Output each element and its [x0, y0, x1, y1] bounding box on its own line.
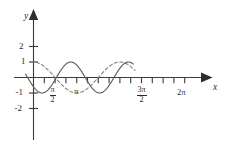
fraction-pi-over-2: π 2: [50, 86, 56, 104]
y-tick-label-minus-1: -1: [16, 88, 24, 97]
trig-graph-figure: y x 2 1 -1 -2 π 2 π 3π 2 2π: [0, 0, 240, 151]
y-axis-arrow-icon: [29, 9, 38, 20]
fraction-three-pi-over-2: 3π 2: [137, 86, 147, 104]
x-tick-label-pi-over-2: π 2: [50, 86, 56, 104]
x-axis-label: x: [213, 83, 217, 93]
fraction-denominator: 2: [137, 96, 147, 104]
y-axis-label: y: [24, 12, 28, 22]
x-tick-label-pi: π: [74, 87, 78, 96]
plot-canvas: [0, 0, 240, 151]
y-tick-label-minus-2: -2: [15, 104, 23, 113]
x-tick-label-three-pi-over-2: 3π 2: [137, 86, 147, 104]
fraction-denominator: 2: [50, 96, 56, 104]
y-tick-label-2: 2: [19, 42, 24, 51]
x-axis-arrow-icon: [201, 73, 213, 83]
y-tick-label-1: 1: [21, 57, 26, 66]
x-tick-label-two-pi: 2π: [177, 88, 186, 97]
